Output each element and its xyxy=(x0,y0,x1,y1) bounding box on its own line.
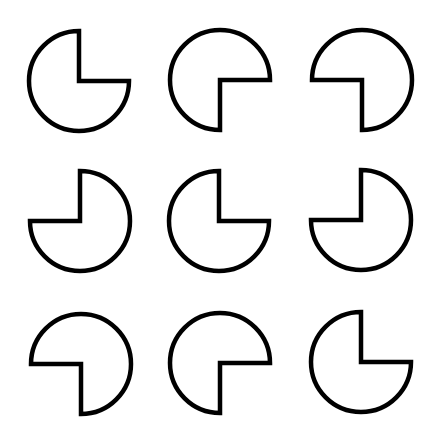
three-quarter-circle-shape xyxy=(311,312,411,412)
three-quarter-circle-shape xyxy=(30,171,130,271)
pacman-shapes-grid xyxy=(0,0,439,442)
shape-outline-top-right-missing xyxy=(29,31,129,131)
shapes-layer xyxy=(29,30,412,414)
three-quarter-circle-shape xyxy=(170,313,270,413)
three-quarter-circle-shape xyxy=(311,170,411,270)
three-quarter-circle-shape xyxy=(29,31,129,131)
shape-outline-bottom-right-missing xyxy=(170,30,270,130)
shape-outline-bottom-left-missing xyxy=(31,314,131,414)
shape-outline-top-left-missing xyxy=(311,170,411,270)
three-quarter-circle-shape xyxy=(170,30,270,130)
shape-outline-top-left-missing xyxy=(30,171,130,271)
shape-outline-bottom-right-missing xyxy=(170,313,270,413)
shape-outline-top-right-missing xyxy=(169,171,269,271)
three-quarter-circle-shape xyxy=(31,314,131,414)
shape-outline-bottom-left-missing xyxy=(312,30,412,130)
three-quarter-circle-shape xyxy=(312,30,412,130)
three-quarter-circle-shape xyxy=(169,171,269,271)
shape-outline-top-right-missing xyxy=(311,312,411,412)
